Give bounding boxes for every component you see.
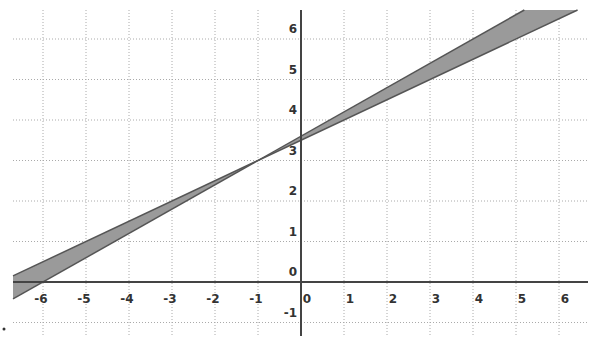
x-tick-label: -6 [34, 292, 47, 306]
line-chart: -6-5-4-3-2-10123456-10123456 [0, 0, 590, 349]
x-tick-label: -3 [163, 292, 176, 306]
x-tick-label: -5 [77, 292, 90, 306]
stray-dot [3, 328, 6, 331]
line-a [13, 10, 524, 299]
y-tick-label: -1 [284, 306, 297, 320]
x-tick-label: 4 [475, 292, 483, 306]
x-tick-label: 1 [346, 292, 354, 306]
x-tick-label: 5 [518, 292, 526, 306]
x-tick-label: -2 [206, 292, 219, 306]
x-tick-label: 3 [432, 292, 440, 306]
x-tick-label: 6 [561, 292, 569, 306]
x-tick-label: -4 [120, 292, 133, 306]
y-tick-label: 0 [289, 265, 297, 279]
x-tick-label: 0 [303, 292, 311, 306]
y-tick-label: 6 [289, 22, 297, 36]
y-tick-label: 5 [289, 63, 297, 77]
y-tick-label: 1 [289, 225, 297, 239]
axes [13, 10, 588, 336]
x-tick-label: -1 [249, 292, 262, 306]
y-tick-label: 2 [289, 184, 297, 198]
y-tick-label: 4 [289, 103, 297, 117]
x-tick-label: 2 [389, 292, 397, 306]
y-tick-label: 3 [289, 144, 297, 158]
